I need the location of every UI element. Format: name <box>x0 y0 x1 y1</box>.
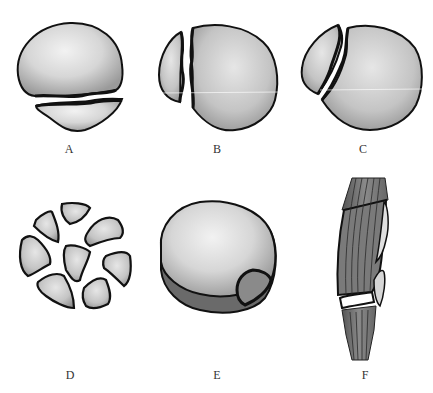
patella-avulsion-illustration <box>330 170 430 370</box>
panel-f-avulsion-fracture <box>330 170 430 370</box>
panel-b-label: B <box>213 142 221 157</box>
panel-b-vertical-fracture <box>145 20 290 140</box>
patella-comminuted-illustration <box>0 190 145 330</box>
patella-vertical-illustration <box>145 20 290 140</box>
patella-transverse-illustration <box>0 20 145 140</box>
panel-a-label: A <box>65 142 74 157</box>
panel-e-label: E <box>213 368 220 383</box>
panel-e-osteochondral-fracture <box>145 190 290 330</box>
patella-oblique-illustration <box>290 20 433 140</box>
panel-a-transverse-fracture <box>0 20 145 140</box>
panel-d-label: D <box>66 368 75 383</box>
panel-d-comminuted-fracture <box>0 190 145 330</box>
cropped-caption-fragment <box>0 0 150 3</box>
patella-osteochondral-illustration <box>145 190 290 330</box>
panel-c-oblique-fracture <box>290 20 433 140</box>
panel-c-label: C <box>359 142 367 157</box>
panel-f-label: F <box>362 368 369 383</box>
